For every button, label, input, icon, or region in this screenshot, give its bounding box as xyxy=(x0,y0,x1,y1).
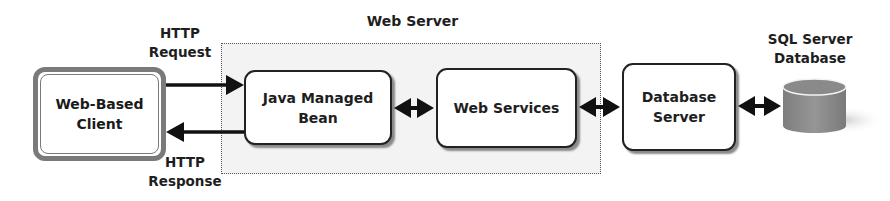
http-response-arrow xyxy=(166,122,244,142)
diagram-connectors xyxy=(0,0,890,201)
http-request-arrow xyxy=(166,75,244,95)
dbserver-database-bidirectional-arrow xyxy=(738,96,781,116)
bean-services-bidirectional-arrow xyxy=(394,98,434,118)
services-dbserver-bidirectional-arrow xyxy=(579,97,620,117)
database-cylinder-icon xyxy=(783,79,885,134)
